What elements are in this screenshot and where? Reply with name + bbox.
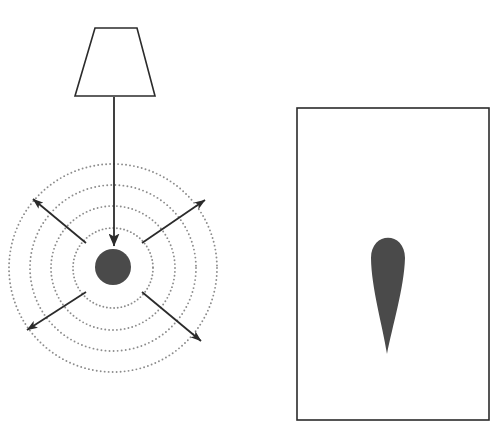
wavefront-dot <box>124 328 126 330</box>
wavefront-dot <box>140 345 142 347</box>
wavefront-dot <box>73 363 75 365</box>
wavefront-dot <box>34 336 36 338</box>
wavefront-dot <box>166 204 168 206</box>
wavefront-dot <box>40 342 42 344</box>
wavefront-dot <box>126 185 128 187</box>
flame-frame-panel <box>297 108 489 420</box>
wavefront-dot <box>42 222 44 224</box>
wavefront-dot <box>72 262 74 264</box>
ray-lower-left <box>27 292 86 330</box>
wavefront-dot <box>184 226 186 228</box>
wavefront-dot <box>182 190 184 192</box>
wavefront-dot <box>101 349 103 351</box>
wavefront-dot <box>70 222 72 224</box>
wavefront-dot <box>168 241 170 243</box>
wavefront-dot <box>148 249 150 251</box>
wavefront-dot <box>133 233 135 235</box>
wavefront-dot <box>40 226 42 228</box>
wavefront-dot <box>86 298 88 300</box>
wavefront-dot <box>105 228 107 230</box>
wavefront-dot <box>131 303 133 305</box>
wavefront-dot <box>191 241 193 243</box>
wavefront-dot <box>194 257 196 259</box>
wavefront-dot <box>81 242 83 244</box>
wavefront-dot <box>50 271 52 273</box>
wavefront-dot <box>207 310 209 312</box>
point-source-disc <box>95 249 131 285</box>
wavefront-dot <box>22 320 24 322</box>
wavefront-dot <box>72 273 74 275</box>
wavefront-dot <box>152 315 154 317</box>
wavefront-dot <box>12 294 14 296</box>
wavefront-dot <box>186 230 188 232</box>
wavefront-dot <box>157 225 159 227</box>
wavefront-dot <box>169 207 171 209</box>
wavefront-dot <box>174 271 176 273</box>
wavefront-dot <box>34 296 36 298</box>
wavefront-dot <box>113 350 115 352</box>
wavefront-dot <box>100 328 102 330</box>
wavefront-dot <box>92 369 94 371</box>
light-source-panel <box>8 28 218 373</box>
wavefront-dot <box>86 188 88 190</box>
wavefront-dot <box>181 345 183 347</box>
wavefront-dot <box>193 249 195 251</box>
wavefront-dot <box>174 275 176 277</box>
wavefront-dot <box>76 317 78 319</box>
wavefront-dot <box>148 170 150 172</box>
wavefront-dot <box>9 282 11 284</box>
wavefront-dot <box>148 285 150 287</box>
wavefront-dot <box>108 329 110 331</box>
wavefront-dot <box>157 197 159 199</box>
wavefront-dot <box>162 303 164 305</box>
wavefront-dot <box>89 347 91 349</box>
wavefront-dot <box>49 349 51 351</box>
wavefront-dot <box>44 314 46 316</box>
wavefront-dot <box>84 295 86 297</box>
wavefront-dot <box>8 258 10 260</box>
wavefront-dot <box>179 316 181 318</box>
wavefront-dot <box>120 206 122 208</box>
wavefront-dot <box>88 368 90 370</box>
wavefront-dot <box>216 265 218 267</box>
wavefront-dot <box>58 237 60 239</box>
wavefront-dot <box>45 347 47 349</box>
wavefront-dot <box>181 313 183 315</box>
wavefront-dot <box>83 189 85 191</box>
wavefront-dot <box>13 298 15 300</box>
wavefront-dot <box>79 290 81 292</box>
wavefront-dot <box>84 367 86 369</box>
wavefront-dot <box>170 180 172 182</box>
wavefront-dot <box>151 274 153 276</box>
wavefront-dot <box>152 263 154 265</box>
wavefront-dot <box>193 287 195 289</box>
wavefront-dot <box>98 185 100 187</box>
wavefront-dot <box>41 311 43 313</box>
wavefront-dot <box>160 199 162 201</box>
wavefront-dot <box>60 332 62 334</box>
wavefront-dot <box>62 358 64 360</box>
wavefront-dot <box>133 165 135 167</box>
wavefront-dot <box>156 173 158 175</box>
wavefront-dot <box>37 339 39 341</box>
wavefront-dot <box>131 208 133 210</box>
wavefront-dot <box>109 163 111 165</box>
wavefront-dot <box>136 235 138 237</box>
wavefront-dot <box>215 283 217 285</box>
wavefront-dot <box>10 246 12 248</box>
wavefront-dot <box>151 259 153 261</box>
wavefront-dot <box>110 307 112 309</box>
wavefront-dot <box>193 283 195 285</box>
wavefront-dot <box>52 252 54 254</box>
wavefront-dot <box>77 342 79 344</box>
wavefront-dot <box>79 319 81 321</box>
wavefront-dot <box>63 175 65 177</box>
wavefront-dot <box>124 206 126 208</box>
wavefront-dot <box>208 226 210 228</box>
wavefront-dot <box>15 305 17 307</box>
wavefront-dot <box>212 295 214 297</box>
wavefront-dot <box>65 199 67 201</box>
wavefront-dot <box>118 184 120 186</box>
wavefront-dot <box>173 255 175 257</box>
wavefront-dot <box>131 326 133 328</box>
